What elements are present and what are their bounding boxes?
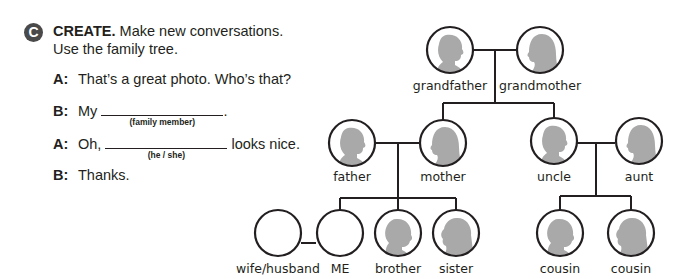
node-grandmother bbox=[517, 27, 563, 74]
node-wife-husband bbox=[255, 210, 301, 256]
node-cousin-1 bbox=[537, 210, 583, 257]
label-cousin-2: cousin bbox=[611, 261, 651, 276]
node-grandfather bbox=[427, 27, 473, 74]
label-sister: sister bbox=[439, 261, 474, 276]
node-sister bbox=[433, 210, 479, 257]
label-brother: brother bbox=[375, 261, 422, 276]
label-uncle: uncle bbox=[537, 169, 571, 184]
label-cousin-1: cousin bbox=[540, 261, 580, 276]
label-grandfather: grandfather bbox=[413, 78, 488, 93]
family-tree: grandfather grandmother father mother un… bbox=[0, 0, 689, 279]
label-mother: mother bbox=[420, 169, 466, 184]
node-uncle bbox=[531, 118, 577, 165]
label-aunt: aunt bbox=[625, 169, 654, 184]
node-brother bbox=[375, 210, 421, 257]
label-me: ME bbox=[331, 261, 350, 276]
node-aunt bbox=[616, 118, 662, 165]
node-father bbox=[329, 120, 375, 167]
node-me bbox=[317, 210, 363, 256]
node-mother bbox=[420, 120, 466, 167]
label-father: father bbox=[333, 169, 372, 184]
label-grandmother: grandmother bbox=[499, 78, 582, 93]
label-wife-husband: wife/husband bbox=[236, 261, 320, 276]
node-cousin-2 bbox=[608, 210, 654, 257]
